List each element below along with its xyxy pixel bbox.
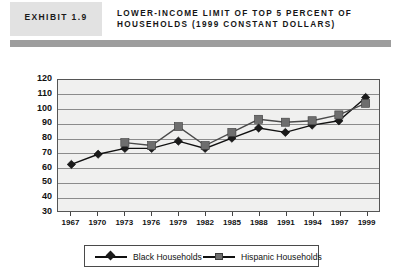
- x-tick-mark: [70, 212, 71, 216]
- diamond-marker-icon: [106, 251, 116, 261]
- x-tick-mark: [286, 212, 287, 216]
- square-marker-icon: [121, 139, 129, 147]
- plot-area: [57, 79, 380, 212]
- x-tick-mark: [124, 212, 125, 216]
- x-tick-label: 1999: [349, 218, 385, 227]
- chart-legend: Black Households Hispanic Households: [84, 245, 319, 267]
- x-tick-mark: [151, 212, 152, 216]
- series-plot: [58, 80, 379, 211]
- x-tick-mark: [178, 212, 179, 216]
- square-marker-icon: [228, 128, 236, 136]
- exhibit-header: EXHIBIT 1.9 LOWER-INCOME LIMIT OF TOP 5 …: [0, 0, 399, 44]
- diamond-marker-icon: [67, 160, 75, 168]
- square-marker-icon: [308, 117, 316, 125]
- square-marker-icon: [335, 111, 343, 119]
- exhibit-chart-page: EXHIBIT 1.9 LOWER-INCOME LIMIT OF TOP 5 …: [0, 0, 399, 279]
- page-title-line2: HOUSEHOLDS (1999 CONSTANT DOLLARS): [117, 19, 392, 30]
- x-tick-mark: [259, 212, 260, 216]
- square-marker-icon: [174, 123, 182, 131]
- page-title: LOWER-INCOME LIMIT OF TOP 5 PERCENT OF H…: [117, 8, 392, 30]
- y-tick-label: 40: [18, 191, 52, 201]
- x-tick-mark: [340, 212, 341, 216]
- square-marker-icon: [201, 141, 209, 149]
- header-divider: [10, 40, 391, 47]
- x-tick-mark: [313, 212, 314, 216]
- exhibit-badge-label: EXHIBIT 1.9: [10, 12, 102, 22]
- x-tick-mark: [367, 212, 368, 216]
- square-marker-icon: [255, 115, 263, 123]
- y-tick-label: 110: [18, 88, 52, 98]
- y-tick-label: 100: [18, 103, 52, 113]
- diamond-marker-icon: [174, 137, 182, 145]
- legend-label-black-households: Black Households: [133, 250, 202, 264]
- square-marker-icon: [281, 118, 289, 126]
- series-line-diamond: [71, 97, 365, 164]
- y-tick-label: 70: [18, 147, 52, 157]
- x-tick-mark: [232, 212, 233, 216]
- diamond-marker-icon: [281, 128, 289, 136]
- legend-label-hispanic-households: Hispanic Households: [241, 250, 322, 264]
- y-tick-label: 50: [18, 176, 52, 186]
- chart-area: Thousands of Dollars 1201101009080706050…: [0, 60, 399, 279]
- square-marker-icon: [362, 99, 370, 107]
- y-tick-label: 30: [18, 206, 52, 216]
- x-tick-mark: [205, 212, 206, 216]
- diamond-marker-icon: [254, 124, 262, 132]
- y-tick-label: 60: [18, 162, 52, 172]
- square-marker-icon: [215, 253, 223, 260]
- page-title-line1: LOWER-INCOME LIMIT OF TOP 5 PERCENT OF: [117, 9, 352, 18]
- square-marker-icon: [148, 141, 156, 149]
- series-line-square: [125, 103, 366, 145]
- y-tick-label: 90: [18, 117, 52, 127]
- x-tick-mark: [97, 212, 98, 216]
- diamond-marker-icon: [94, 150, 102, 158]
- y-tick-label: 80: [18, 132, 52, 142]
- y-tick-label: 120: [18, 73, 52, 83]
